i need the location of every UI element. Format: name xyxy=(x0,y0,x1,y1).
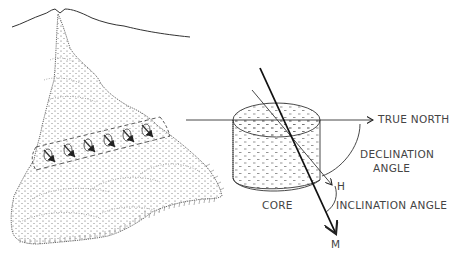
lava-flow xyxy=(11,14,224,244)
declination-label-line2: ANGLE xyxy=(373,162,410,174)
declination-label-line1: DECLINATION xyxy=(360,148,434,160)
core-cylinder xyxy=(233,103,320,191)
diagram-canvas xyxy=(0,0,454,262)
inclination-label: INCLINATION ANGLE xyxy=(336,199,447,211)
inclination-arc xyxy=(326,186,336,212)
true-north-label: TRUE NORTH xyxy=(378,113,449,125)
paleomagnetism-figure: TRUE NORTH DECLINATION ANGLE H CORE INCL… xyxy=(0,0,454,262)
h-label: H xyxy=(337,180,345,192)
m-label: M xyxy=(331,238,340,250)
declination-arc xyxy=(322,124,360,176)
core-label: CORE xyxy=(262,199,293,211)
volcano-outline xyxy=(12,9,190,37)
